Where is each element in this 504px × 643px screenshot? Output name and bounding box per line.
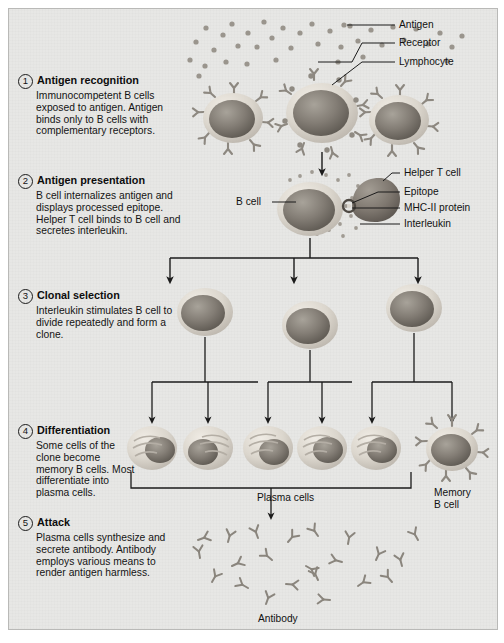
step-1-title: Antigen recognition	[37, 74, 139, 86]
step-4-title: Differentiation	[37, 424, 110, 436]
clone-cell-2	[282, 301, 338, 349]
plasma-cell-4	[297, 426, 347, 470]
label-antigen: Antigen	[399, 19, 434, 31]
label-receptor: Receptor	[399, 37, 440, 49]
step-4-header: 4 Differentiation	[18, 424, 138, 439]
step-1-header: 1 Antigen recognition	[18, 74, 186, 89]
step-5: 5 Attack Plasma cells synthesize and sec…	[18, 516, 186, 579]
step-4-body: Some cells of the clone become memory B …	[36, 440, 138, 499]
lymphocyte-cell-3	[360, 85, 438, 156]
step-5-number: 5	[18, 516, 33, 531]
step-5-body: Plasma cells synthesize and secrete anti…	[36, 532, 186, 579]
plasma-cell-3	[243, 426, 293, 470]
label-epitope: Epitope	[404, 186, 439, 198]
lymphocyte-cell-1	[193, 83, 273, 154]
step-2-body: B cell internalizes antigen and displays…	[36, 190, 186, 237]
label-antibody: Antibody	[258, 613, 298, 625]
label-memory-b-cell-line2: B cell	[434, 499, 459, 511]
label-mhc-ii-protein: MHC-II protein	[404, 202, 470, 214]
b-cell-step2	[277, 182, 343, 236]
plasma-cell-2	[183, 426, 233, 470]
step-3-header: 3 Clonal selection	[18, 289, 186, 304]
antibody-cluster	[193, 524, 422, 606]
step-3: 3 Clonal selection Interleukin stimulate…	[18, 289, 186, 340]
step-4-number: 4	[18, 424, 33, 439]
clonal-branch-arrows	[170, 258, 418, 280]
clone-cell-3	[386, 284, 442, 332]
step-2-title: Antigen presentation	[37, 174, 145, 186]
step-3-body: Interleukin stimulates B cell to divide …	[36, 305, 186, 340]
step-2-header: 2 Antigen presentation	[18, 174, 186, 189]
figure-canvas: 1 Antigen recognition Immunocompetent B …	[0, 0, 504, 643]
step-5-title: Attack	[37, 516, 70, 528]
step-3-title: Clonal selection	[37, 289, 120, 301]
step-3-number: 3	[18, 289, 33, 304]
step-1-body: Immunocompetent B cells exposed to antig…	[36, 90, 186, 137]
step-1: 1 Antigen recognition Immunocompetent B …	[18, 74, 186, 137]
lymphocyte-cell-2-selected	[275, 69, 368, 159]
label-lymphocyte: Lymphocyte	[399, 56, 454, 68]
step-5-header: 5 Attack	[18, 516, 186, 531]
label-plasma-cells: Plasma cells	[257, 492, 314, 504]
step-2-number: 2	[18, 174, 33, 189]
step-1-number: 1	[18, 74, 33, 89]
label-interleukin: Interleukin	[404, 218, 451, 230]
step-2: 2 Antigen presentation B cell internaliz…	[18, 174, 186, 237]
plasma-cell-5	[351, 426, 401, 470]
label-memory-b-cell-line1: Memory	[434, 487, 471, 499]
label-b-cell: B cell	[236, 196, 261, 208]
label-helper-t-cell: Helper T cell	[404, 167, 461, 179]
memory-b-cell	[416, 415, 488, 481]
step-4: 4 Differentiation Some cells of the clon…	[18, 424, 138, 499]
